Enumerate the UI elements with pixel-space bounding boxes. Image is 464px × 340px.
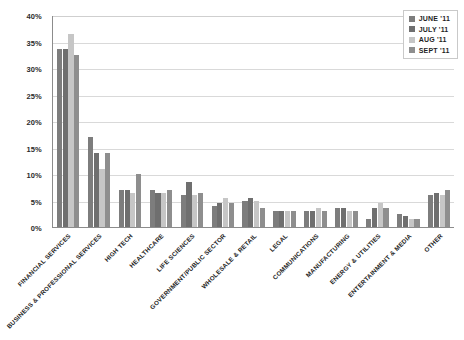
- bar: [285, 211, 290, 227]
- legend-swatch-icon: [409, 16, 415, 22]
- bar: [248, 198, 253, 227]
- y-axis-tick-label: 35%: [26, 38, 42, 47]
- bar: [341, 208, 346, 227]
- bar: [414, 219, 419, 227]
- bar: [136, 174, 141, 227]
- bar-cluster: [115, 16, 146, 227]
- bar: [403, 216, 408, 227]
- bar: [217, 203, 222, 227]
- y-axis-tick-label: 0%: [31, 224, 42, 233]
- y-axis-tick-label: 15%: [26, 144, 42, 153]
- bar: [150, 190, 155, 227]
- bar: [291, 211, 296, 227]
- x-axis-tick-label: HIGH TECH: [0, 232, 134, 340]
- bar: [181, 195, 186, 227]
- bar-chart: 40%35%30%25%20%15%10%5%0% FINANCIAL SERV…: [0, 0, 464, 340]
- x-axis-tick-label: LIFE SCIENCES: [50, 232, 196, 340]
- bar: [88, 137, 93, 227]
- legend-item[interactable]: SEPT '11: [409, 47, 450, 54]
- bar: [409, 219, 414, 227]
- bar: [105, 153, 110, 227]
- x-axis-tick-label: LEGAL: [143, 232, 289, 340]
- bar: [125, 190, 130, 227]
- bar: [445, 190, 450, 227]
- bar-cluster: [300, 16, 331, 227]
- legend-label: JUNE '11: [419, 15, 450, 22]
- bar-cluster: [84, 16, 115, 227]
- bar: [260, 208, 265, 227]
- legend-label: AUG '11: [419, 36, 447, 43]
- x-axis-tick-label: COMMUNICATIONS: [173, 232, 319, 340]
- bar: [68, 34, 73, 227]
- legend-label: JULY '11: [419, 26, 449, 33]
- bar: [347, 211, 352, 227]
- legend-label: SEPT '11: [419, 47, 450, 54]
- bar-cluster: [53, 16, 84, 227]
- bar-cluster: [331, 16, 362, 227]
- legend-item[interactable]: AUG '11: [409, 36, 450, 43]
- bars-layer: [53, 16, 454, 227]
- plot-area: [52, 16, 454, 228]
- bar-cluster: [146, 16, 177, 227]
- bar: [316, 208, 321, 227]
- bar: [167, 190, 172, 227]
- bar: [155, 193, 160, 227]
- bar-cluster: [208, 16, 239, 227]
- legend-swatch-icon: [409, 37, 415, 43]
- legend-item[interactable]: JUNE '11: [409, 15, 450, 22]
- x-axis-tick-label: WHOLESALE & RETAIL: [112, 232, 258, 340]
- x-axis-tick-label: GOVERNMENT/PUBLIC SECTOR: [81, 232, 227, 340]
- bar: [198, 193, 203, 227]
- bar: [397, 214, 402, 227]
- y-axis: 40%35%30%25%20%15%10%5%0%: [0, 16, 48, 228]
- bar: [378, 203, 383, 227]
- bar: [428, 195, 433, 227]
- x-axis-tick-label: ENERGY & UTILITIES: [235, 232, 381, 340]
- bar: [63, 49, 68, 227]
- bar: [335, 208, 340, 227]
- bar: [254, 201, 259, 228]
- legend-swatch-icon: [409, 26, 415, 32]
- bar: [94, 153, 99, 227]
- bar: [304, 211, 309, 227]
- bar: [74, 55, 79, 227]
- bar-cluster: [362, 16, 393, 227]
- bar: [242, 201, 247, 228]
- bar: [99, 169, 104, 227]
- x-axis-tick-label: HEALTHCARE: [19, 232, 165, 340]
- x-axis-tick-label: ENTERTAINMENT & MEDIA: [266, 232, 412, 340]
- bar-cluster: [177, 16, 208, 227]
- bar: [161, 193, 166, 227]
- chart-legend: JUNE '11JULY '11AUG '11SEPT '11: [403, 10, 458, 59]
- y-axis-tick-label: 30%: [26, 65, 42, 74]
- legend-swatch-icon: [409, 47, 415, 53]
- x-axis-tick-label: OTHER: [297, 232, 443, 340]
- bar: [434, 193, 439, 227]
- legend-item[interactable]: JULY '11: [409, 26, 450, 33]
- bar-cluster: [239, 16, 270, 227]
- x-axis-tick-label: FINANCIAL SERVICES: [0, 232, 72, 340]
- y-axis-tick-label: 5%: [31, 197, 42, 206]
- x-axis-tick-label: BUSINESS & PROFESSIONAL SERVICES: [0, 232, 103, 340]
- bar: [223, 198, 228, 227]
- bar: [192, 195, 197, 227]
- bar: [212, 206, 217, 227]
- bar: [440, 195, 445, 227]
- bar: [372, 208, 377, 227]
- y-axis-tick-label: 20%: [26, 118, 42, 127]
- bar: [383, 208, 388, 227]
- y-axis-tick-label: 40%: [26, 12, 42, 21]
- bar: [57, 49, 62, 227]
- y-axis-tick-label: 25%: [26, 91, 42, 100]
- bar: [353, 211, 358, 227]
- bar: [186, 182, 191, 227]
- bar: [273, 211, 278, 227]
- bar: [279, 211, 284, 227]
- bar-cluster: [269, 16, 300, 227]
- bar: [130, 193, 135, 227]
- x-axis-tick-label: MANUFACTURING: [204, 232, 350, 340]
- bar: [229, 203, 234, 227]
- bar: [310, 211, 315, 227]
- bar: [119, 190, 124, 227]
- bar: [322, 211, 327, 227]
